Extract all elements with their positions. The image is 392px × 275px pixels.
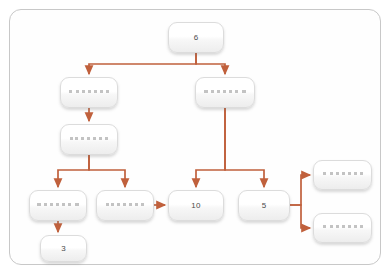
edge-n4-n5 [58, 155, 89, 187]
edge-n1-n3 [196, 53, 225, 74]
node-label-redacted [323, 172, 363, 178]
node-label: 5 [262, 202, 267, 210]
node-label-redacted [70, 137, 108, 143]
node-label-redacted [323, 225, 363, 231]
node-n8[interactable]: 5 [238, 190, 290, 221]
edge-n4-n6 [89, 155, 125, 187]
node-label: 6 [194, 34, 199, 42]
node-n1[interactable]: 6 [168, 22, 224, 53]
node-n2[interactable] [60, 77, 118, 108]
edge-n1-n2 [89, 53, 196, 74]
node-label: 10 [191, 202, 201, 210]
edge-n3-n7 [196, 108, 225, 187]
node-label-redacted [204, 90, 246, 96]
node-n10[interactable] [313, 213, 372, 243]
node-n5[interactable] [29, 190, 87, 221]
node-n4[interactable] [60, 124, 118, 155]
node-label-redacted [69, 90, 109, 96]
diagram-canvas: 6 10 5 3 [0, 0, 392, 275]
node-label-redacted [37, 203, 79, 209]
node-label-redacted [106, 203, 144, 209]
node-n11[interactable]: 3 [40, 235, 87, 262]
edge-n8-n10 [290, 205, 310, 228]
node-n7[interactable]: 10 [168, 190, 224, 221]
node-n3[interactable] [195, 77, 255, 108]
node-n6[interactable] [96, 190, 154, 221]
node-n9[interactable] [313, 160, 372, 190]
node-label: 3 [61, 245, 66, 253]
edge-n3-n8 [225, 108, 264, 187]
edge-n8-n9 [290, 175, 310, 205]
